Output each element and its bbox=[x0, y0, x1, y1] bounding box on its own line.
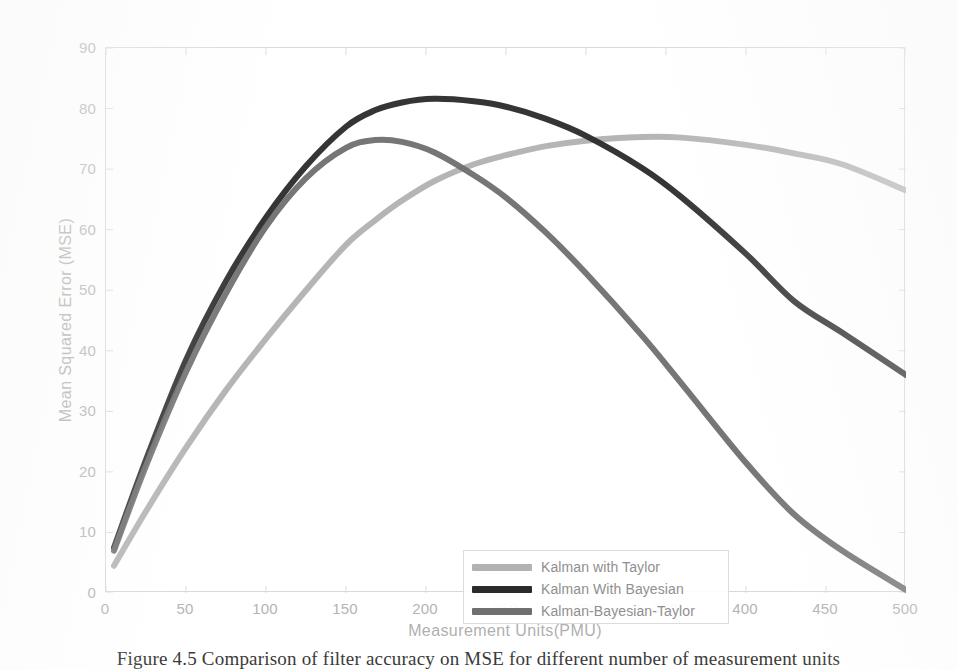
legend-item-3[interactable]: Kalman-Bayesian-Taylor bbox=[472, 600, 720, 622]
x-axis-title: Measurement Units(PMU) bbox=[105, 622, 905, 640]
figure-container: Mean Squared Error (MSE) 010203040506070… bbox=[0, 0, 957, 670]
y-tick-label-90: 90 bbox=[52, 39, 96, 56]
legend-item-label: Kalman-Bayesian-Taylor bbox=[541, 603, 695, 619]
figure-caption-clip: Figure 4.5 Comparison of filter accuracy… bbox=[0, 651, 957, 670]
legend-swatch-icon bbox=[472, 586, 532, 593]
chart-canvas bbox=[106, 48, 906, 593]
y-tick-label-70: 70 bbox=[52, 160, 96, 177]
chart-legend[interactable]: Kalman with TaylorKalman With BayesianKa… bbox=[463, 550, 729, 624]
series-line-kalman-bayesian-taylor bbox=[114, 140, 906, 590]
x-tick-label-0: 0 bbox=[101, 600, 110, 617]
legend-item-2[interactable]: Kalman With Bayesian bbox=[472, 578, 720, 600]
y-axis-title-wrapper: Mean Squared Error (MSE) bbox=[26, 47, 46, 592]
figure-caption: Figure 4.5 Comparison of filter accuracy… bbox=[0, 651, 957, 670]
y-tick-label-10: 10 bbox=[52, 523, 96, 540]
legend-swatch-icon bbox=[472, 564, 532, 571]
x-tick-label-100: 100 bbox=[252, 600, 278, 617]
x-tick-label-400: 400 bbox=[732, 600, 758, 617]
x-tick-label-200: 200 bbox=[412, 600, 438, 617]
series-line-kalman-with-bayesian bbox=[114, 99, 906, 548]
y-tick-label-30: 30 bbox=[52, 402, 96, 419]
x-tick-label-500: 500 bbox=[892, 600, 918, 617]
y-tick-label-50: 50 bbox=[52, 281, 96, 298]
legend-swatch-icon bbox=[472, 608, 532, 615]
y-tick-label-60: 60 bbox=[52, 220, 96, 237]
legend-item-1[interactable]: Kalman with Taylor bbox=[472, 556, 720, 578]
y-tick-label-0: 0 bbox=[52, 584, 96, 601]
x-tick-label-50: 50 bbox=[176, 600, 193, 617]
y-tick-label-20: 20 bbox=[52, 462, 96, 479]
x-tick-label-450: 450 bbox=[812, 600, 838, 617]
axis-tick-marks bbox=[106, 48, 906, 593]
y-axis-tick-labels: 0102030405060708090 bbox=[52, 47, 96, 592]
data-series-group bbox=[114, 99, 906, 590]
y-tick-label-40: 40 bbox=[52, 341, 96, 358]
legend-item-label: Kalman with Taylor bbox=[541, 559, 660, 575]
y-tick-label-80: 80 bbox=[52, 99, 96, 116]
plot-area: Kalman with TaylorKalman With BayesianKa… bbox=[105, 47, 905, 592]
legend-item-label: Kalman With Bayesian bbox=[541, 581, 684, 597]
x-tick-label-150: 150 bbox=[332, 600, 358, 617]
